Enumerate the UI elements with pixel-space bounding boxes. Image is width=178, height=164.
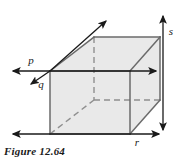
label-p: p: [27, 54, 34, 66]
figure-container: p q r s Figure 12.64: [0, 0, 178, 164]
label-q: q: [38, 78, 44, 90]
label-s: s: [169, 25, 173, 37]
figure-caption: Figure 12.64: [4, 145, 65, 157]
label-r: r: [135, 136, 140, 148]
cuboid-diagram: p q r s: [0, 0, 178, 164]
